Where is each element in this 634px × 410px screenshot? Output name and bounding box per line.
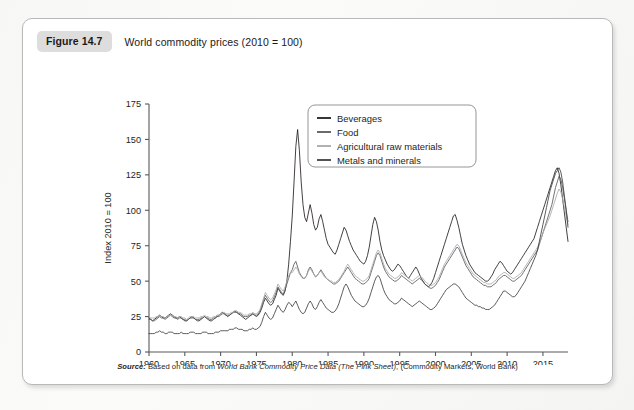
y-axis-tick-label: 75 bbox=[131, 241, 141, 251]
y-axis-tick-label: 125 bbox=[126, 170, 141, 180]
source-lead: Based on data from bbox=[146, 362, 218, 371]
chart-series-line bbox=[149, 168, 568, 334]
legend-label: Metals and minerals bbox=[337, 155, 421, 166]
source-text: Source: Based on data from World Bank Co… bbox=[117, 362, 518, 371]
legend-label: Agricultural raw materials bbox=[337, 141, 443, 152]
y-axis-tick-label: 50 bbox=[131, 277, 141, 287]
figure-title: World commodity prices (2010 = 100) bbox=[125, 36, 303, 48]
y-axis-title: Index 2010 = 100 bbox=[103, 192, 113, 263]
source-label: Source: bbox=[117, 362, 146, 371]
figure-number-badge: Figure 14.7 bbox=[37, 31, 112, 52]
chart-series-line bbox=[149, 176, 568, 321]
y-axis-tick-label: 150 bbox=[126, 135, 141, 145]
legend-label: Food bbox=[337, 127, 358, 138]
source-publication: World Bank Commodity Price Data (The Pin… bbox=[217, 362, 396, 371]
chart-series-line bbox=[149, 189, 568, 319]
source-note: Source: Based on data from World Bank Co… bbox=[23, 355, 612, 373]
figure-box: Figure 14.7 World commodity prices (2010… bbox=[22, 18, 613, 385]
source-tail: , (Commodity Markets, World Bank) bbox=[396, 362, 518, 371]
legend-label: Beverages bbox=[337, 113, 382, 124]
figure-header: Figure 14.7 World commodity prices (2010… bbox=[37, 31, 303, 52]
page-root: Figure 14.7 World commodity prices (2010… bbox=[0, 0, 634, 410]
y-axis-tick-label: 25 bbox=[131, 312, 141, 322]
y-axis-tick-label: 175 bbox=[126, 99, 141, 109]
chart-area: 0255075100125150175196019651970197519801… bbox=[23, 65, 614, 365]
y-axis-tick-label: 100 bbox=[126, 206, 141, 216]
commodity-price-line-chart: 0255075100125150175196019651970197519801… bbox=[23, 65, 614, 365]
